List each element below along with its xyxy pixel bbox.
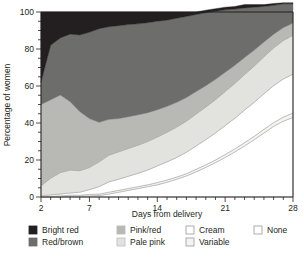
legend-swatch [186,226,194,234]
legend-item-cream[interactable]: Cream [186,225,225,235]
y-tick-label: 100 [20,7,34,17]
legend-label: Red/brown [42,237,83,247]
stacked-area-chart: 27142128 020406080100 Days from delivery… [0,0,304,260]
legend-label: Cream [199,225,225,235]
legend-item-bright-red[interactable]: Bright red [29,225,79,235]
x-tick-label: 2 [39,203,44,213]
x-tick-label: 7 [87,203,92,213]
legend-label: Pink/red [130,225,161,235]
chart-figure: 27142128 020406080100 Days from delivery… [0,0,304,260]
x-tick-label: 21 [220,203,230,213]
legend-label: None [267,225,288,235]
legend-label: Pale pink [130,237,166,247]
legend-swatch [186,238,194,246]
legend-swatch [117,226,125,234]
legend-item-variable[interactable]: Variable [186,237,230,247]
legend-item-pale-pink[interactable]: Pale pink [117,237,166,247]
plot-area [41,3,293,197]
legend-item-none[interactable]: None [254,225,288,235]
legend-swatch [29,238,37,246]
legend-swatch [29,226,37,234]
legend-item-red-brown[interactable]: Red/brown [29,237,83,247]
y-tick-label: 0 [29,192,34,202]
legend-swatch [254,226,262,234]
y-axis-title: Percentage of women [2,63,12,146]
y-tick-label: 40 [25,118,35,128]
legend-label: Variable [199,237,230,247]
y-tick-label: 60 [25,81,35,91]
legend-item-pink-red[interactable]: Pink/red [117,225,161,235]
x-tick-label: 28 [288,203,298,213]
y-tick-label: 80 [25,44,35,54]
legend-label: Bright red [42,225,79,235]
x-axis-title: Days from delivery [132,209,203,219]
y-tick-label: 20 [25,155,35,165]
legend-swatch [117,238,125,246]
